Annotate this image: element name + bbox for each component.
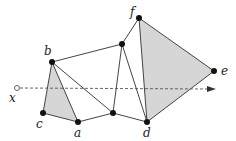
label-c: c bbox=[36, 117, 43, 131]
vertex-b bbox=[49, 59, 55, 65]
vertex-f bbox=[136, 15, 142, 21]
edge-ag bbox=[78, 113, 113, 122]
vertex-a bbox=[75, 119, 81, 125]
shaded-triangle-bca bbox=[43, 62, 78, 122]
vertex-d bbox=[144, 119, 150, 125]
label-d: d bbox=[143, 126, 151, 140]
ray-origin-icon bbox=[15, 86, 20, 91]
label-b: b bbox=[44, 44, 52, 58]
triangulation-diagram: bcafedx bbox=[0, 0, 236, 141]
vertex-g bbox=[110, 110, 116, 116]
vertex-h bbox=[119, 41, 125, 47]
arrowhead-icon bbox=[207, 86, 216, 92]
label-f: f bbox=[129, 5, 137, 19]
label-x: x bbox=[9, 91, 16, 105]
label-a: a bbox=[74, 126, 81, 140]
edge-bh bbox=[52, 44, 122, 62]
vertex-c bbox=[40, 110, 46, 116]
shaded-triangle-fed bbox=[139, 18, 214, 122]
label-e: e bbox=[221, 64, 228, 78]
edge-hg bbox=[113, 44, 122, 113]
edge-hf bbox=[122, 18, 139, 44]
edge-gd bbox=[113, 113, 147, 122]
vertex-e bbox=[211, 68, 217, 74]
